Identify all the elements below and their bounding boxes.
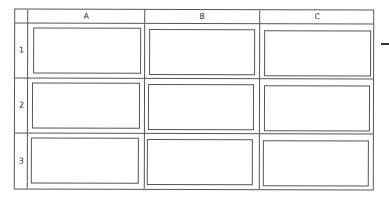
cell-c2[interactable] [264,85,370,131]
dash-marker [381,43,389,45]
row-header-2: 2 [15,79,28,133]
cell-c3[interactable] [263,140,369,186]
wireframe-grid: A B C 1 2 3 [14,9,374,191]
column-divider-bc [259,10,260,189]
column-header-c: C [260,10,374,23]
row-divider-12 [15,78,373,80]
cell-c1[interactable] [264,30,371,76]
cell-a3[interactable] [31,138,139,184]
row-header-1: 1 [15,24,28,78]
cell-a2[interactable] [32,83,140,129]
column-divider-ab [144,10,145,189]
column-header-a: A [28,10,144,23]
row-divider-23 [15,133,373,135]
column-header-b: B [145,10,259,23]
cell-b1[interactable] [149,29,255,75]
cell-b3[interactable] [147,139,253,185]
cell-a1[interactable] [33,28,141,74]
row-header-3: 3 [15,134,28,190]
cell-b2[interactable] [148,84,254,130]
